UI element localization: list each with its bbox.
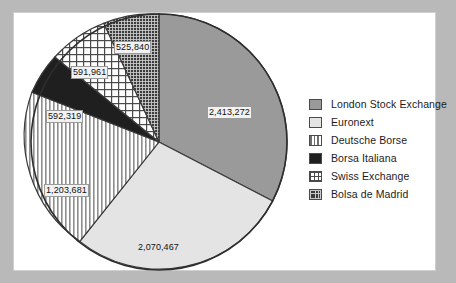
legend-item-deutsche-borse[interactable]: Deutsche Borse bbox=[309, 131, 456, 149]
legend: London Stock Exchange Euronext Deutsche … bbox=[309, 95, 456, 203]
legend-label: London Stock Exchange bbox=[331, 98, 447, 110]
plot-area: 2,413,272 2,070,467 1,203,681 592,319 59… bbox=[13, 12, 436, 271]
pie-value-label-borsa-italiana: 592,319 bbox=[46, 110, 83, 123]
figure-frame: 2,413,272 2,070,467 1,203,681 592,319 59… bbox=[0, 0, 456, 283]
legend-item-london-stock-exchange[interactable]: London Stock Exchange bbox=[309, 95, 456, 113]
solid-gray-swatch-icon bbox=[309, 99, 322, 110]
grid-swatch-icon bbox=[309, 171, 322, 182]
legend-label: Bolsa de Madrid bbox=[331, 188, 408, 200]
pie-value-label-london-stock-exchange: 2,413,272 bbox=[207, 106, 252, 119]
solid-light-gray-swatch-icon bbox=[309, 117, 322, 128]
solid-black-swatch-icon bbox=[309, 153, 322, 164]
pie-value-label-bolsa-de-madrid: 525,840 bbox=[114, 41, 151, 54]
vertical-lines-swatch-icon bbox=[309, 135, 322, 146]
fine-grid-swatch-icon bbox=[309, 189, 322, 200]
pie-value-label-swiss-exchange: 591,961 bbox=[71, 66, 108, 79]
pie-svg bbox=[13, 12, 305, 271]
legend-label: Deutsche Borse bbox=[331, 134, 407, 146]
pie-chart: 2,413,272 2,070,467 1,203,681 592,319 59… bbox=[13, 12, 305, 283]
legend-label: Borsa Italiana bbox=[331, 152, 397, 164]
pie-value-label-euronext: 2,070,467 bbox=[138, 242, 179, 253]
legend-item-swiss-exchange[interactable]: Swiss Exchange bbox=[309, 167, 456, 185]
legend-label: Swiss Exchange bbox=[331, 170, 409, 182]
legend-item-euronext[interactable]: Euronext bbox=[309, 113, 456, 131]
pie-value-label-deutsche-borse: 1,203,681 bbox=[44, 184, 89, 197]
legend-item-borsa-italiana[interactable]: Borsa Italiana bbox=[309, 149, 456, 167]
legend-label: Euronext bbox=[331, 116, 374, 128]
legend-item-bolsa-de-madrid[interactable]: Bolsa de Madrid bbox=[309, 185, 456, 203]
